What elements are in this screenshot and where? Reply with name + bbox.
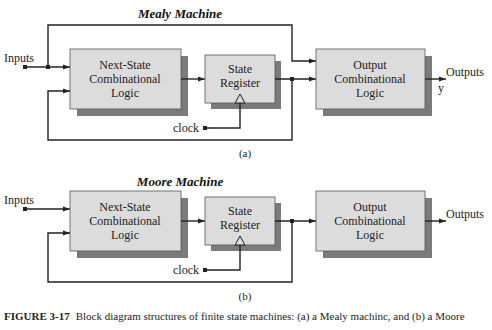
moore-inputs-label: Inputs — [4, 193, 34, 207]
mealy-outputs-label: Outputs — [446, 65, 484, 79]
moore-title: Moore Machine — [136, 174, 224, 189]
mealy-output-var: y — [438, 81, 444, 95]
moore-sublabel: (b) — [239, 290, 252, 303]
mealy-next-state-label-2: Combinational — [89, 72, 161, 86]
moore-output-label-1: Output — [353, 200, 387, 214]
mealy-next-state-label-1: Next-State — [99, 58, 150, 72]
moore-machine-diagram: Moore Machine Inputs Next-State Combinat… — [4, 174, 484, 303]
moore-next-state-label-3: Logic — [111, 228, 139, 242]
moore-outputs-label: Outputs — [446, 207, 484, 221]
mealy-output-label-2: Combinational — [334, 72, 406, 86]
mealy-sr-label-2: Register — [220, 76, 260, 90]
moore-next-state-label-1: Next-State — [99, 200, 150, 214]
mealy-output-label-1: Output — [353, 58, 387, 72]
mealy-next-state-label-3: Logic — [111, 86, 139, 100]
mealy-inputs-label: Inputs — [4, 51, 34, 65]
moore-sr-label-1: State — [228, 204, 252, 218]
mealy-clock-label: clock — [173, 121, 199, 135]
mealy-machine-diagram: Mealy Machine Inputs Next-State Combinat… — [4, 6, 484, 160]
figure-caption: FIGURE 3-17Block diagram structures of f… — [4, 310, 492, 322]
mealy-sr-label-1: State — [228, 62, 252, 76]
moore-output-label-3: Logic — [356, 228, 384, 242]
mealy-sublabel: (a) — [239, 147, 252, 160]
moore-next-state-label-2: Combinational — [89, 214, 161, 228]
moore-clock-label: clock — [173, 263, 199, 277]
figure-number: FIGURE 3-17 — [4, 310, 70, 322]
figure-caption-text: Block diagram structures of finite state… — [76, 310, 465, 322]
moore-output-label-2: Combinational — [334, 214, 406, 228]
fsm-block-diagram: Mealy Machine Inputs Next-State Combinat… — [0, 0, 492, 330]
mealy-title: Mealy Machine — [137, 6, 222, 21]
mealy-output-label-3: Logic — [356, 86, 384, 100]
moore-sr-label-2: Register — [220, 218, 260, 232]
